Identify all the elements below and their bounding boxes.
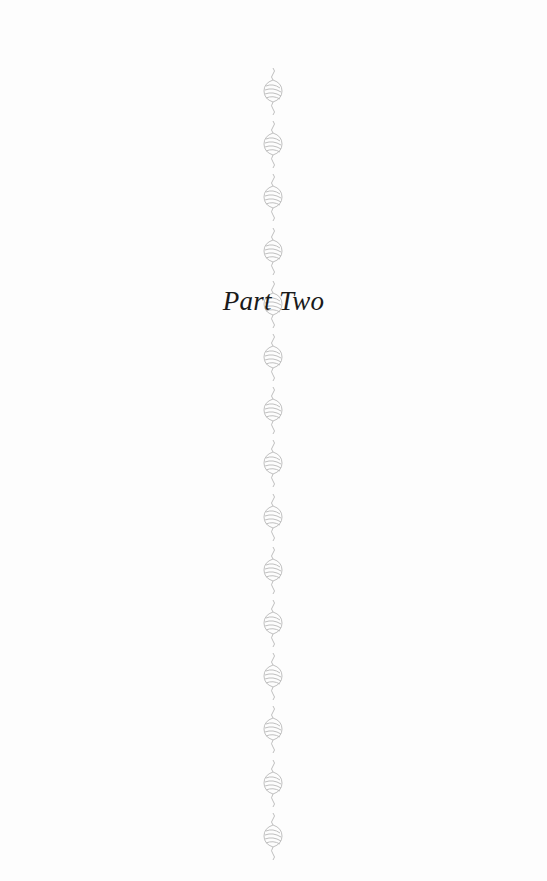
flourish-ornament-icon (258, 811, 288, 861)
flourish-ornament-icon (258, 226, 288, 276)
ornament-column (0, 0, 547, 881)
flourish-ornament-icon (258, 438, 288, 488)
part-title: Part Two (0, 286, 547, 317)
flourish-ornament-icon (258, 119, 288, 169)
flourish-ornament-icon (258, 758, 288, 808)
flourish-ornament-icon (258, 598, 288, 648)
flourish-ornament-icon (258, 704, 288, 754)
flourish-ornament-icon (258, 172, 288, 222)
flourish-ornament-icon (258, 651, 288, 701)
flourish-ornament-icon (258, 332, 288, 382)
flourish-ornament-icon (258, 492, 288, 542)
flourish-ornament-icon (258, 66, 288, 116)
flourish-ornament-icon (258, 545, 288, 595)
flourish-ornament-icon (258, 385, 288, 435)
